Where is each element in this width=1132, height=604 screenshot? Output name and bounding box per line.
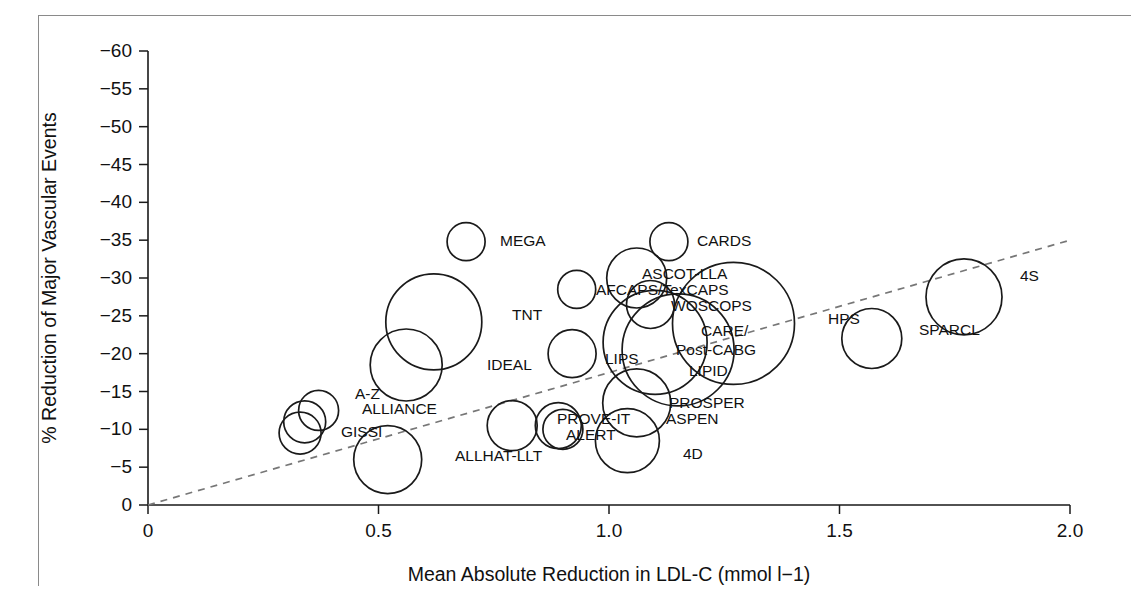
study-label: ALERT xyxy=(566,426,616,443)
y-tick-label: −50 xyxy=(100,116,132,137)
study-label: ASPEN xyxy=(666,410,719,427)
study-label: GISSI xyxy=(341,423,382,440)
x-axis-title: Mean Absolute Reduction in LDL-C (mmol l… xyxy=(408,563,811,585)
axes-layer: 0−5−10−15−20−25−30−35−40−45−50−55−6000.5… xyxy=(100,40,1083,541)
y-axis-title: % Reduction of Major Vascular Events xyxy=(38,112,60,444)
y-tick-label: −60 xyxy=(100,40,132,61)
study-label: 4S xyxy=(1020,267,1039,284)
study-label: SPARCL xyxy=(919,321,980,338)
x-tick-label: 1.0 xyxy=(596,520,622,541)
study-bubble xyxy=(447,223,485,261)
bubble-layer xyxy=(279,223,1002,494)
x-tick-label: 1.5 xyxy=(826,520,852,541)
study-bubble xyxy=(558,270,596,308)
y-tick-label: −30 xyxy=(100,267,132,288)
study-label: MEGA xyxy=(500,232,546,249)
y-tick-label: −10 xyxy=(100,418,132,439)
regression-trendline xyxy=(148,240,1070,505)
trendline-layer xyxy=(148,240,1070,505)
y-tick-label: −40 xyxy=(100,191,132,212)
x-tick-label: 0.5 xyxy=(365,520,391,541)
study-label: TNT xyxy=(512,306,543,323)
study-label: LIPID xyxy=(689,362,728,379)
study-bubble xyxy=(370,329,442,401)
study-label: CARDS xyxy=(697,232,751,249)
study-label: WOSCOPS xyxy=(671,297,752,314)
y-tick-label: −15 xyxy=(100,381,132,402)
study-label: 4D xyxy=(683,445,703,462)
bubble-chart: 0−5−10−15−20−25−30−35−40−45−50−55−6000.5… xyxy=(0,0,1132,604)
y-tick-label: −45 xyxy=(100,154,132,175)
study-bubble xyxy=(548,330,596,378)
study-label: HPS xyxy=(828,310,860,327)
y-tick-label: −5 xyxy=(110,456,132,477)
study-label: ALLHAT-LLT xyxy=(455,447,543,464)
study-bubble xyxy=(284,401,326,443)
study-label: CARE/ xyxy=(701,322,749,339)
study-label: IDEAL xyxy=(487,356,532,373)
y-tick-label: −55 xyxy=(100,78,132,99)
study-label-layer: MEGACARDSASCOT-LLAAFCAPS/TexCAPSWOSCOPST… xyxy=(341,232,1039,464)
y-tick-label: −25 xyxy=(100,305,132,326)
study-label: ALLIANCE xyxy=(362,400,437,417)
y-tick-label: −20 xyxy=(100,343,132,364)
study-label: PROSPER xyxy=(669,394,745,411)
study-label: Post-CABG xyxy=(676,341,756,358)
y-tick-label: 0 xyxy=(121,494,132,515)
study-label: ASCOT-LLA xyxy=(642,265,728,282)
study-label: PROVE-IT xyxy=(557,410,631,427)
study-bubble xyxy=(487,401,537,451)
study-bubble xyxy=(386,274,482,370)
y-tick-label: −35 xyxy=(100,229,132,250)
study-label: AFCAPS/TexCAPS xyxy=(596,281,729,298)
x-tick-label: 2.0 xyxy=(1057,520,1083,541)
x-tick-label: 0 xyxy=(143,520,154,541)
study-label: LIPS xyxy=(605,350,639,367)
